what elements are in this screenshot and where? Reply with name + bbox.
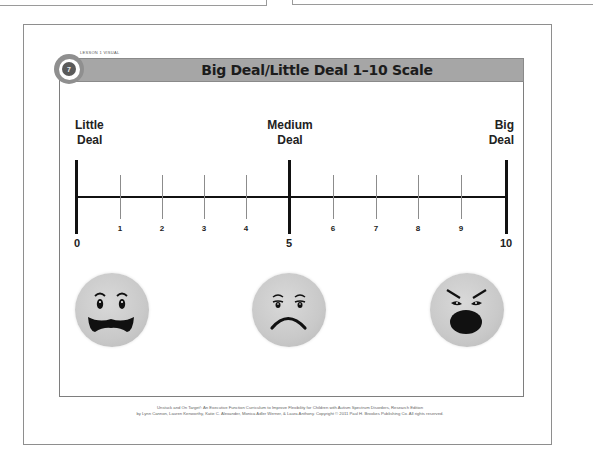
scale-axis xyxy=(76,196,507,198)
angry-face-icon xyxy=(430,273,504,347)
copyright-footer: Unstuck and On Target!: An Executive Fun… xyxy=(60,405,520,416)
minor-tick-6 xyxy=(333,175,334,219)
tick-label-8: 8 xyxy=(408,224,428,233)
previous-page-frame-right xyxy=(292,0,593,5)
tick-label-5: 5 xyxy=(277,237,301,249)
page-title: Big Deal/Little Deal 1–10 Scale xyxy=(201,62,432,78)
tick-label-1: 1 xyxy=(110,224,130,233)
major-tick-10 xyxy=(505,160,508,234)
worried-face-icon xyxy=(75,273,149,347)
minor-tick-9 xyxy=(461,175,462,219)
major-tick-0 xyxy=(75,160,78,234)
minor-tick-7 xyxy=(376,175,377,219)
tick-label-0: 0 xyxy=(65,237,89,249)
little-deal-label: Little Deal xyxy=(75,118,104,148)
minor-tick-2 xyxy=(162,175,163,219)
sad-face-icon xyxy=(252,273,326,347)
previous-page-frame-left xyxy=(0,0,267,6)
badge-number: 7 xyxy=(62,62,76,76)
lesson-label: LESSON 1 VISUAL xyxy=(80,50,119,55)
minor-tick-3 xyxy=(204,175,205,219)
tick-label-4: 4 xyxy=(236,224,256,233)
big-deal-label: Big Deal xyxy=(482,118,514,148)
medium-deal-label: Medium Deal xyxy=(264,118,316,148)
minor-tick-1 xyxy=(120,175,121,219)
tick-label-2: 2 xyxy=(152,224,172,233)
tick-label-10: 10 xyxy=(494,237,518,249)
tick-label-3: 3 xyxy=(194,224,214,233)
footer-line-2: by Lynn Cannon, Lauren Kenworthy, Katie … xyxy=(60,411,520,417)
title-banner: Big Deal/Little Deal 1–10 Scale xyxy=(70,58,524,82)
lesson-badge: 7 xyxy=(54,54,84,84)
minor-tick-4 xyxy=(246,175,247,219)
tick-label-6: 6 xyxy=(323,224,343,233)
major-tick-5 xyxy=(288,160,291,234)
tick-label-7: 7 xyxy=(366,224,386,233)
tick-label-9: 9 xyxy=(451,224,471,233)
minor-tick-8 xyxy=(418,175,419,219)
